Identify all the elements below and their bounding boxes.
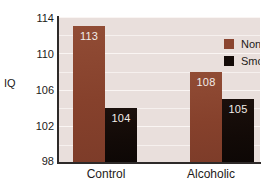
bar-value-control-nonsmoker: 113 xyxy=(73,30,105,42)
bar-alcoholic-nonsmoker: 108 xyxy=(190,72,222,163)
legend-label-smoker: Smoker xyxy=(241,55,260,67)
bar-control-smoker: 104 xyxy=(105,108,137,163)
gridline-114 xyxy=(58,17,260,18)
legend-item-smoker: Smoker xyxy=(224,53,260,69)
x-axis-line xyxy=(57,162,261,164)
y-axis-title: IQ xyxy=(4,78,16,89)
legend-label-nonsmoker: Nonsmoker xyxy=(241,38,260,50)
x-tick-control: Control xyxy=(58,167,154,181)
chart-figure: 114 110 106 102 98 IQ 113 104 108 105 xyxy=(0,0,277,187)
bar-value-control-smoker: 104 xyxy=(105,112,137,124)
y-tick-98: 98 xyxy=(8,156,54,167)
x-tick-alcoholic: Alcoholic xyxy=(163,167,259,181)
chart-legend: Nonsmoker Smoker xyxy=(224,36,260,70)
bar-control-nonsmoker: 113 xyxy=(73,26,105,163)
y-tick-110: 110 xyxy=(8,49,54,60)
y-axis-line xyxy=(57,16,59,164)
y-tick-114: 114 xyxy=(8,13,54,24)
bar-alcoholic-smoker: 105 xyxy=(222,99,254,163)
bar-value-alcoholic-smoker: 105 xyxy=(222,103,254,115)
legend-swatch-smoker-icon xyxy=(224,56,234,66)
plot-area: 113 104 108 105 Nonsmoker Smoker xyxy=(58,17,260,163)
y-axis-tick-labels: 114 110 106 102 98 xyxy=(0,0,54,187)
y-tick-102: 102 xyxy=(8,121,54,132)
legend-swatch-nonsmoker-icon xyxy=(224,39,234,49)
legend-item-nonsmoker: Nonsmoker xyxy=(224,36,260,52)
bar-value-alcoholic-nonsmoker: 108 xyxy=(190,76,222,88)
